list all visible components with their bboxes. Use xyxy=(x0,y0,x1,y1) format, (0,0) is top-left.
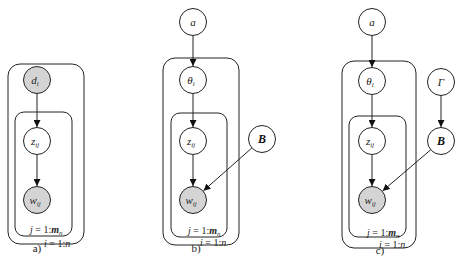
node-w: wij xyxy=(359,187,386,214)
panel-caption: a) xyxy=(33,242,42,255)
node-theta: θi xyxy=(359,68,386,95)
node-a: a xyxy=(359,9,386,36)
node-d: di xyxy=(24,67,51,94)
panel-a: j = 1:mni = 1:ndizijwija) xyxy=(8,64,84,255)
outer-plate xyxy=(8,64,84,244)
node-label: a xyxy=(190,16,196,28)
node-w: wij xyxy=(180,187,207,214)
outer-plate-label: i = 1:n xyxy=(44,238,70,249)
node-theta: θi xyxy=(180,67,207,94)
node-label: Γ xyxy=(437,76,445,88)
node-z: zij xyxy=(180,128,207,155)
node-B: B xyxy=(428,128,455,155)
panel-b: j = 1:mni = 1:naθizijwijBb) xyxy=(163,9,276,256)
inner-plate-label: j = 1:mn xyxy=(28,224,63,237)
edge-B-to-w xyxy=(383,150,431,191)
panel-c: j = 1:mni = 1:naθizijwijΓBc) xyxy=(342,9,455,258)
node-w: wij xyxy=(24,187,51,214)
node-label: a xyxy=(369,16,375,28)
node-label: B xyxy=(436,134,445,148)
edge-B-to-w xyxy=(203,148,251,191)
node-z: zij xyxy=(359,128,386,155)
node-a: a xyxy=(180,9,207,36)
graphical-model-diagram: j = 1:mni = 1:ndizijwija)j = 1:mni = 1:n… xyxy=(0,0,461,258)
node-label: B xyxy=(257,132,266,146)
node-Gamma: Γ xyxy=(428,69,455,96)
outer-plate-label: i = 1:n xyxy=(200,237,226,248)
node-z: zij xyxy=(24,128,51,155)
panel-caption: c) xyxy=(376,244,385,257)
node-B: B xyxy=(249,126,276,153)
panel-caption: b) xyxy=(191,242,201,255)
